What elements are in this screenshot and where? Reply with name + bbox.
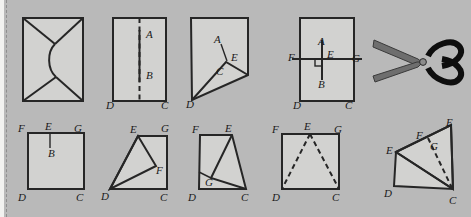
fig5-label-G: G bbox=[74, 122, 82, 134]
fig9-label-D: D bbox=[383, 187, 392, 199]
fig-4-perpendicular: A F E G B D C bbox=[287, 18, 362, 111]
fig4-label-C: C bbox=[345, 99, 353, 111]
figure-plate: A B D C A E C D A F E G B D C bbox=[0, 0, 471, 217]
fig5-label-D: D bbox=[17, 191, 26, 203]
fig9-label-C: C bbox=[449, 194, 457, 206]
fig9-label-E-top: E bbox=[445, 116, 453, 128]
fig3-label-C: C bbox=[216, 65, 224, 77]
fig6-label-E: E bbox=[129, 123, 137, 135]
fig-3-folded-corner: A E C D bbox=[185, 18, 248, 110]
fig7-label-E: E bbox=[224, 122, 232, 134]
fig7-label-F: F bbox=[191, 123, 199, 135]
fig8-label-F: F bbox=[271, 123, 279, 135]
geometry-figure-group: A B D C A E C D A F E G B D C bbox=[0, 0, 471, 217]
fig8-label-D: D bbox=[271, 191, 280, 203]
fig-9-folded-paper: E F G E D C bbox=[383, 116, 457, 206]
fig-1-envelope bbox=[23, 18, 83, 101]
fig4-label-D: D bbox=[292, 99, 301, 111]
fig3-label-D: D bbox=[185, 98, 194, 110]
scissors-icon bbox=[373, 40, 461, 82]
fig-5-square-crease: F E G B D C bbox=[17, 120, 84, 203]
fig8-label-G: G bbox=[334, 123, 342, 135]
fig7-label-G: G bbox=[205, 176, 213, 188]
fig5-label-E: E bbox=[44, 120, 52, 132]
fig8-label-E: E bbox=[303, 120, 311, 132]
fig6-label-F: F bbox=[155, 164, 163, 176]
fig3-label-A: A bbox=[213, 33, 221, 45]
fig4-label-B: B bbox=[318, 78, 325, 90]
fig5-label-C: C bbox=[76, 191, 84, 203]
fig2-label-D: D bbox=[105, 99, 114, 111]
fig2-label-C: C bbox=[161, 99, 169, 111]
fig-8-dashed-creases: F E G D C bbox=[271, 120, 342, 203]
fig4-label-G: G bbox=[352, 52, 360, 64]
fig3-label-E: E bbox=[230, 51, 238, 63]
fig6-label-C: C bbox=[160, 191, 168, 203]
fig9-label-E-left: E bbox=[385, 144, 393, 156]
fig4-label-F: F bbox=[287, 51, 295, 63]
fig7-label-D: D bbox=[187, 191, 196, 203]
fig5-label-F: F bbox=[17, 122, 25, 134]
fig-6-triangle-DEF: E G F D C bbox=[100, 122, 169, 203]
fig6-label-D: D bbox=[100, 190, 109, 202]
fig-7-interior-point-G: F E G D C bbox=[187, 122, 249, 203]
fig7-label-C: C bbox=[241, 191, 249, 203]
fig9-label-F: F bbox=[415, 129, 423, 141]
fig9-label-G: G bbox=[430, 140, 438, 152]
fig4-label-A: A bbox=[317, 35, 325, 47]
fig2-label-B: B bbox=[146, 69, 153, 81]
fig4-label-E: E bbox=[326, 48, 334, 60]
fig2-label-A: A bbox=[145, 28, 153, 40]
fig-2-rectangle-crease: A B D C bbox=[105, 18, 169, 111]
fig5-label-B: B bbox=[48, 147, 55, 159]
fig6-label-G: G bbox=[161, 122, 169, 134]
fig8-label-C: C bbox=[332, 191, 340, 203]
